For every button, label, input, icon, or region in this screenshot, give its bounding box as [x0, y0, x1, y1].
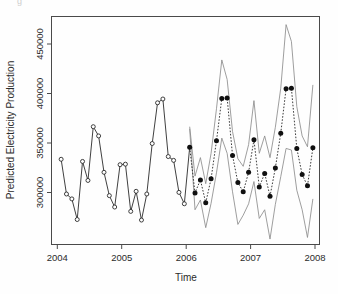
- observed-series-line: [61, 99, 184, 220]
- x-tick-2004: 2004: [47, 252, 68, 263]
- x-tick-2006: 2006: [176, 252, 197, 263]
- forecast-point: [198, 177, 203, 182]
- prediction-interval-upper: [190, 25, 313, 184]
- forecast-point: [241, 189, 246, 194]
- observed-point: [177, 190, 181, 194]
- y-tick-400000: 400000: [34, 78, 45, 110]
- observed-point: [70, 197, 74, 201]
- forecast-point: [289, 86, 294, 91]
- forecast-point: [268, 194, 273, 199]
- forecast-point: [230, 153, 235, 158]
- forecast-time-series-plot: 450000 400000 350000 300000 2004 2005 20…: [0, 0, 338, 294]
- observed-point: [161, 97, 165, 101]
- observed-point: [118, 163, 122, 167]
- forecast-point: [251, 137, 256, 142]
- y-tick-300000: 300000: [34, 177, 45, 209]
- x-axis-tick-labels: 2004 2005 2006 2007 2008: [47, 252, 326, 263]
- observed-point: [123, 162, 127, 166]
- forecast-point: [284, 86, 289, 91]
- plot-frame: [52, 17, 320, 245]
- observed-point: [113, 205, 117, 209]
- x-tick-2007: 2007: [240, 252, 261, 263]
- x-tick-2008: 2008: [304, 252, 325, 263]
- observed-point: [166, 155, 170, 159]
- forecast-point: [300, 172, 305, 177]
- observed-point: [156, 101, 160, 105]
- chart-canvas: 450000 400000 350000 300000 2004 2005 20…: [0, 0, 338, 294]
- y-axis-ticks: [47, 44, 52, 193]
- forecast-point: [219, 96, 224, 101]
- forecast-point: [262, 171, 267, 176]
- observed-point: [81, 159, 85, 163]
- observed-point: [97, 134, 101, 138]
- observed-point: [75, 218, 79, 222]
- observed-point: [182, 202, 186, 206]
- forecast-point: [193, 190, 198, 195]
- series-layer: [59, 25, 315, 239]
- y-tick-450000: 450000: [34, 28, 45, 60]
- y-axis-title: Predicted Electricity Production: [5, 61, 16, 199]
- forecast-series-line: [190, 88, 313, 203]
- forecast-point: [294, 146, 299, 151]
- forecast-point: [187, 145, 192, 150]
- forecast-point: [278, 131, 283, 136]
- forecast-point: [257, 184, 262, 189]
- observed-to-forecast-connector: [184, 147, 189, 203]
- y-axis-tick-labels: 450000 400000 350000 300000: [34, 28, 45, 208]
- forecast-point: [209, 176, 214, 181]
- observed-point: [59, 157, 63, 161]
- forecast-point: [273, 165, 278, 170]
- forecast-point: [203, 200, 208, 205]
- forecast-point: [305, 183, 310, 188]
- x-axis-ticks: [57, 245, 315, 250]
- x-axis-title: Time: [175, 272, 197, 283]
- observed-point: [86, 178, 90, 182]
- observed-point: [107, 194, 111, 198]
- observed-point: [139, 218, 143, 222]
- observed-point: [145, 192, 149, 196]
- forecast-point: [310, 145, 315, 150]
- top-left-artifact: g: [17, 0, 22, 6]
- forecast-point: [235, 180, 240, 185]
- observed-point: [172, 158, 176, 162]
- observed-point: [150, 142, 154, 146]
- observed-point: [91, 125, 95, 129]
- forecast-point: [225, 95, 230, 100]
- forecast-point: [246, 170, 251, 175]
- prediction-interval-lower: [190, 129, 313, 239]
- forecast-point: [214, 138, 219, 143]
- observed-point: [64, 192, 68, 196]
- x-tick-2005: 2005: [111, 252, 132, 263]
- y-tick-350000: 350000: [34, 127, 45, 159]
- observed-point: [129, 209, 133, 213]
- observed-point: [102, 170, 106, 174]
- observed-point: [134, 189, 138, 193]
